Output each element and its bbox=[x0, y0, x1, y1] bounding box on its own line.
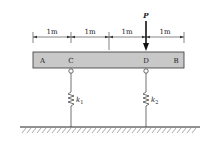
point-label-d: D bbox=[143, 57, 149, 65]
spring-icon bbox=[68, 92, 74, 106]
point-label-a: A bbox=[39, 57, 46, 65]
spring-2 bbox=[143, 69, 149, 127]
spring-label-k2: k2 bbox=[151, 96, 158, 105]
hinge-icon bbox=[69, 69, 73, 73]
beam bbox=[33, 52, 184, 68]
dimension-label-1: 1m bbox=[46, 28, 57, 36]
spring-label-k1: k1 bbox=[76, 96, 83, 105]
hinge-icon bbox=[144, 69, 148, 73]
ground-hatching bbox=[22, 128, 196, 133]
dimension-label-4: 1m bbox=[159, 28, 170, 36]
dimension-label-3: 1m bbox=[121, 28, 132, 36]
point-label-c: C bbox=[68, 57, 73, 65]
dimension-label-2: 1m bbox=[84, 28, 95, 36]
spring-1 bbox=[68, 69, 74, 127]
point-label-b: B bbox=[173, 57, 178, 65]
load-label: P bbox=[142, 11, 149, 20]
spring-icon bbox=[143, 92, 149, 106]
beam-spring-diagram: 1m 1m 1m 1m P A C D B k1 k2 bbox=[0, 0, 210, 142]
load-arrow-icon bbox=[143, 43, 149, 51]
